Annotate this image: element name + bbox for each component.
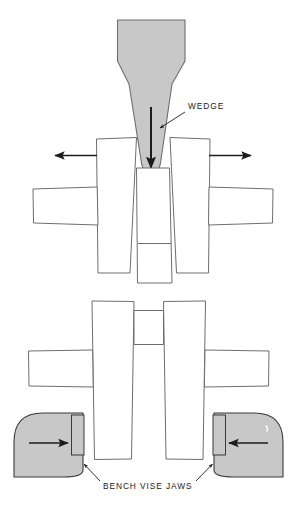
- clamped-right-side-bar: [204, 350, 269, 387]
- top-view-group: WEDGE: [33, 20, 273, 283]
- workpiece-left-side-bar: [33, 187, 98, 225]
- vise-label-leader-left: [84, 464, 100, 481]
- bench-vise-jaw-right-insert: [213, 415, 226, 455]
- workpiece-center-column: [137, 168, 173, 283]
- wedge-label: WEDGE: [188, 101, 224, 111]
- clamped-left-side-bar: [29, 350, 94, 387]
- bottom-view-group: BENCH VISE JAWS: [14, 301, 283, 491]
- workpiece-right-half: [170, 138, 210, 274]
- diagram-root: WEDGE: [0, 0, 300, 505]
- clamped-right-half: [164, 301, 206, 460]
- bench-vise-jaw-left-insert: [72, 415, 85, 455]
- wedge-vise-diagram: WEDGE: [0, 0, 300, 505]
- bench-vise-jaws-label: BENCH VISE JAWS: [103, 481, 193, 491]
- vise-label-leader-right: [196, 464, 213, 481]
- clamped-center-bridge: [134, 311, 164, 345]
- workpiece-right-side-bar: [209, 187, 274, 225]
- clamped-left-half: [92, 301, 134, 460]
- workpiece-left-half: [97, 138, 137, 274]
